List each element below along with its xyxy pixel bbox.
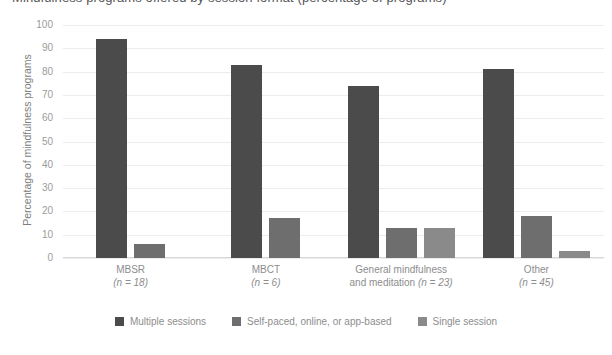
bar — [424, 228, 455, 258]
bar — [521, 216, 552, 258]
bar — [231, 65, 262, 258]
bar — [269, 218, 300, 258]
group-name: General mindfulness — [334, 263, 469, 276]
gridline — [63, 118, 604, 119]
x-axis-group-label: MBSR(n = 18) — [63, 263, 198, 289]
legend-swatch-icon — [115, 317, 124, 326]
bar — [134, 244, 165, 258]
bar — [483, 69, 514, 258]
gridline — [63, 188, 604, 189]
y-axis-tick-label: 90 — [19, 43, 53, 53]
gridline — [63, 258, 604, 259]
gridline — [63, 25, 604, 26]
y-axis-tick-label: 0 — [19, 253, 53, 263]
plot-area: 0102030405060708090100 — [63, 25, 604, 258]
sample-size: (n = 18) — [113, 277, 148, 288]
chart-title-text: Mindfulness programs offered by session … — [12, 0, 447, 5]
group-name: MBCT — [198, 263, 333, 276]
group-subline: (n = 45) — [469, 276, 604, 289]
gridline — [63, 211, 604, 212]
y-axis-tick-label: 30 — [19, 183, 53, 193]
gridline — [63, 165, 604, 166]
chart-legend: Multiple sessionsSelf-paced, online, or … — [0, 312, 612, 330]
y-axis-tick-label: 20 — [19, 206, 53, 216]
legend-item[interactable]: Multiple sessions — [115, 316, 206, 327]
legend-item[interactable]: Self-paced, online, or app-based — [232, 316, 392, 327]
legend-swatch-icon — [232, 317, 241, 326]
y-axis-tick-label: 80 — [19, 67, 53, 77]
y-axis-tick-label: 10 — [19, 230, 53, 240]
sample-size: (n = 6) — [251, 277, 280, 288]
bar — [559, 251, 590, 258]
sample-size: (n = 23) — [418, 277, 453, 288]
y-axis-tick-label: 40 — [19, 160, 53, 170]
legend-swatch-icon — [418, 317, 427, 326]
group-subline: (n = 18) — [63, 276, 198, 289]
gridline — [63, 142, 604, 143]
cut-off-title: Mindfulness programs offered by session … — [0, 0, 612, 9]
group-subline: (n = 6) — [198, 276, 333, 289]
gridline — [63, 72, 604, 73]
x-axis-group-label: Other(n = 45) — [469, 263, 604, 289]
legend-label: Multiple sessions — [130, 316, 206, 327]
legend-label: Single session — [433, 316, 497, 327]
bar — [386, 228, 417, 258]
x-axis-group-label: MBCT(n = 6) — [198, 263, 333, 289]
x-axis-group-label: General mindfulnessand meditation (n = 2… — [334, 263, 469, 289]
legend-item[interactable]: Single session — [418, 316, 497, 327]
gridline — [63, 48, 604, 49]
y-axis-tick-label: 70 — [19, 90, 53, 100]
y-axis-tick-label: 50 — [19, 137, 53, 147]
group-subline: and meditation (n = 23) — [334, 276, 469, 289]
group-name: MBSR — [63, 263, 198, 276]
bar — [96, 39, 127, 258]
legend-label: Self-paced, online, or app-based — [247, 316, 392, 327]
y-axis-tick-label: 60 — [19, 113, 53, 123]
gridline — [63, 95, 604, 96]
sample-size: (n = 45) — [519, 277, 554, 288]
bar-chart: Percentage of mindfulness programs 01020… — [0, 9, 612, 309]
bar — [348, 86, 379, 258]
group-name: Other — [469, 263, 604, 276]
y-axis-tick-label: 100 — [19, 20, 53, 30]
